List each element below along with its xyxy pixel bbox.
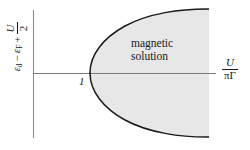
- y-axis-fraction-numerator: U: [5, 23, 18, 35]
- x-axis-label-fraction: U πΓ: [222, 57, 238, 82]
- y-axis-minus-operator: −: [11, 55, 23, 61]
- y-axis-fraction-denominator: 2: [18, 23, 30, 35]
- phase-diagram-figure: magnetic solution 1 U πΓ εd − εF + U 2: [0, 0, 250, 150]
- epsilon-d-symbol: ε: [10, 67, 22, 71]
- x-axis-label: U πΓ: [222, 57, 238, 82]
- y-axis-plus-operator: +: [11, 36, 23, 42]
- x-tick-label-1: 1: [79, 75, 85, 87]
- x-axis-label-denominator: πΓ: [222, 70, 238, 82]
- epsilon-d-subscript: d: [15, 63, 24, 67]
- y-axis-term-epsilon-d: εd: [10, 63, 24, 71]
- y-axis-label-fraction: U 2: [5, 23, 30, 35]
- plot-area: [0, 0, 250, 150]
- magnetic-solution-label: magnetic solution: [131, 37, 205, 62]
- epsilon-f-symbol: ε: [10, 49, 22, 53]
- y-axis-term-epsilon-f: εF: [10, 45, 24, 54]
- x-axis-label-numerator: U: [222, 57, 238, 70]
- y-axis-label-container: εd − εF + U 2: [7, 0, 27, 97]
- epsilon-f-subscript: F: [15, 45, 24, 49]
- y-axis-label: εd − εF + U 2: [5, 23, 30, 72]
